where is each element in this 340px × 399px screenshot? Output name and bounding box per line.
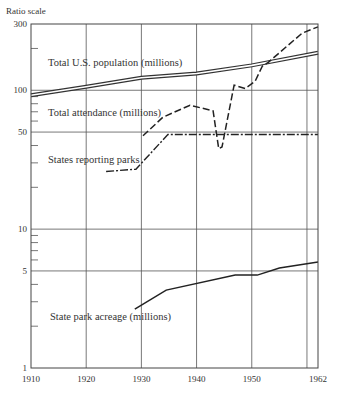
- y-axis-label: Ratio scale: [6, 6, 46, 16]
- series-lines: [31, 27, 318, 309]
- acreage-line: [135, 262, 318, 309]
- label-states: States reporting parks: [48, 154, 140, 165]
- x-tick-label: 1910: [22, 374, 41, 384]
- y-tick-label: 1: [23, 363, 28, 373]
- x-tick-label: 1950: [243, 374, 262, 384]
- chart: Total U.S. population (millions)Total at…: [0, 0, 340, 399]
- y-tick-label: 10: [18, 224, 28, 234]
- annotations: Total U.S. population (millions)Total at…: [48, 57, 183, 323]
- label-population: Total U.S. population (millions): [48, 57, 183, 69]
- label-acreage: State park acreage (millions): [50, 311, 171, 323]
- y-tick-label: 50: [18, 127, 28, 137]
- label-attendance: Total attendance (millions): [48, 107, 161, 119]
- chart-svg: Total U.S. population (millions)Total at…: [0, 0, 340, 399]
- x-tick-label: 1940: [188, 374, 207, 384]
- y-tick-label: 5: [23, 266, 28, 276]
- y-tick-label: 300: [14, 19, 28, 29]
- x-tick-label: 1930: [132, 374, 151, 384]
- x-tick-label: 1962: [309, 374, 327, 384]
- states-line: [106, 135, 318, 172]
- attendance-line: [143, 27, 318, 149]
- x-tick-label: 1920: [77, 374, 96, 384]
- y-tick-label: 100: [14, 85, 28, 95]
